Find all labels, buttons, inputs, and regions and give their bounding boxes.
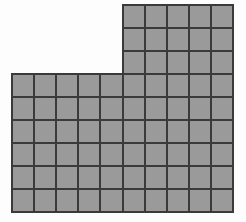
unit-square [34, 143, 56, 166]
unit-square [100, 143, 122, 166]
unit-square [189, 74, 211, 97]
unit-square [145, 166, 167, 189]
unit-square [211, 97, 233, 120]
unit-square [145, 143, 167, 166]
unit-square [123, 189, 145, 212]
unit-square [145, 74, 167, 97]
unit-square [145, 189, 167, 212]
unit-square [211, 74, 233, 97]
unit-square [211, 51, 233, 74]
unit-square [56, 143, 78, 166]
unit-square [78, 97, 100, 120]
unit-square [189, 51, 211, 74]
unit-square [100, 74, 122, 97]
unit-square [12, 143, 34, 166]
unit-square [211, 166, 233, 189]
unit-square [123, 166, 145, 189]
unit-square [56, 166, 78, 189]
unit-square [167, 97, 189, 120]
unit-square [167, 120, 189, 143]
unit-square [78, 74, 100, 97]
unit-square [167, 166, 189, 189]
unit-square [12, 74, 34, 97]
unit-square [56, 74, 78, 97]
unit-square [211, 5, 233, 28]
unit-square [78, 189, 100, 212]
l-shape-figure [0, 0, 246, 222]
unit-square [167, 143, 189, 166]
unit-square [211, 120, 233, 143]
unit-square [100, 166, 122, 189]
unit-square [100, 120, 122, 143]
unit-square [211, 189, 233, 212]
unit-square [189, 5, 211, 28]
unit-square [34, 97, 56, 120]
unit-square [145, 5, 167, 28]
unit-square [189, 189, 211, 212]
unit-square [167, 28, 189, 51]
unit-square [167, 5, 189, 28]
unit-square [12, 166, 34, 189]
unit-square [123, 74, 145, 97]
unit-square [189, 143, 211, 166]
unit-square [56, 97, 78, 120]
unit-square [189, 166, 211, 189]
unit-square [145, 51, 167, 74]
unit-square [34, 189, 56, 212]
unit-square [56, 189, 78, 212]
unit-square [123, 97, 145, 120]
unit-square [189, 120, 211, 143]
unit-square [123, 28, 145, 51]
unit-square [78, 120, 100, 143]
unit-square [78, 143, 100, 166]
unit-square [211, 143, 233, 166]
unit-square [123, 51, 145, 74]
unit-square [100, 189, 122, 212]
unit-square [167, 74, 189, 97]
unit-square [123, 5, 145, 28]
unit-square [145, 120, 167, 143]
unit-square [145, 97, 167, 120]
unit-square [34, 166, 56, 189]
unit-square [167, 189, 189, 212]
unit-square [34, 74, 56, 97]
unit-square [145, 28, 167, 51]
unit-square [12, 120, 34, 143]
unit-square [189, 28, 211, 51]
unit-square [12, 97, 34, 120]
unit-square [167, 51, 189, 74]
unit-square [123, 143, 145, 166]
unit-square [100, 97, 122, 120]
unit-square [189, 97, 211, 120]
unit-square [211, 28, 233, 51]
unit-square [34, 120, 56, 143]
unit-square-grid [0, 0, 246, 222]
unit-square [78, 166, 100, 189]
unit-square [123, 120, 145, 143]
unit-square [12, 189, 34, 212]
unit-square [56, 120, 78, 143]
